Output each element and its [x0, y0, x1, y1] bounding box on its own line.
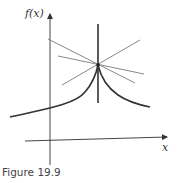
- tangent-line-1: [48, 39, 135, 83]
- figure: f(x) x Figure 19.9: [0, 0, 184, 183]
- curve-left: [10, 65, 98, 117]
- cusp-point: [96, 63, 100, 67]
- cusp-diagram: [0, 0, 184, 183]
- y-axis-label: f(x): [25, 7, 44, 20]
- tangent-line-2: [58, 56, 144, 74]
- tangent-line-3: [62, 40, 140, 85]
- figure-caption: Figure 19.9: [2, 166, 61, 178]
- curve-right: [98, 65, 150, 107]
- x-axis-label: x: [162, 141, 168, 154]
- x-axis: [25, 137, 167, 141]
